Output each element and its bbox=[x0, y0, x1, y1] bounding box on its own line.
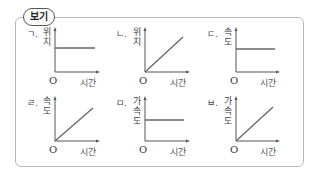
origin-label: O bbox=[230, 144, 238, 155]
x-axis-label: 시간 bbox=[260, 145, 276, 158]
